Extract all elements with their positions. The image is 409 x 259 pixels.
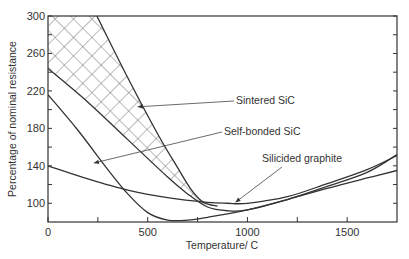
y-tick-label: 220 xyxy=(27,85,45,97)
annotation-label: Self-bonded SiC xyxy=(224,125,301,137)
y-tick-label: 300 xyxy=(27,10,45,22)
annotation-sintered-sic: Sintered SiC xyxy=(138,94,296,109)
y-tick-labels: 100140180220260300 xyxy=(27,10,45,209)
y-tick-label: 180 xyxy=(27,122,45,134)
chart: 050010001500 100140180220260300 Temperat… xyxy=(0,0,409,259)
x-tick-label: 1000 xyxy=(235,226,259,238)
annotation-leader-line xyxy=(235,167,282,202)
annotation-silicided-graphite: Silicided graphite xyxy=(235,152,342,202)
y-tick-label: 260 xyxy=(27,47,45,59)
annotation-label: Silicided graphite xyxy=(262,152,342,164)
x-tick-labels: 050010001500 xyxy=(45,226,359,238)
x-tick-label: 0 xyxy=(45,226,51,238)
annotation-leader-line xyxy=(138,101,234,107)
hatch-fill-sintered-sic xyxy=(48,16,218,207)
arrow-head-icon xyxy=(94,160,99,164)
x-tick-label: 1500 xyxy=(335,226,359,238)
x-axis-title: Temperature/ C xyxy=(186,239,259,251)
x-tick-label: 500 xyxy=(139,226,157,238)
y-tick-label: 100 xyxy=(27,197,45,209)
annotation-label: Sintered SiC xyxy=(236,94,295,106)
arrow-head-icon xyxy=(235,198,240,203)
y-axis-title: Percentage of nominal resistance xyxy=(6,41,18,197)
y-tick-label: 140 xyxy=(27,160,45,172)
series-line-silicided-graphite xyxy=(48,156,397,204)
sintered-sic-shaded-region xyxy=(48,16,218,207)
